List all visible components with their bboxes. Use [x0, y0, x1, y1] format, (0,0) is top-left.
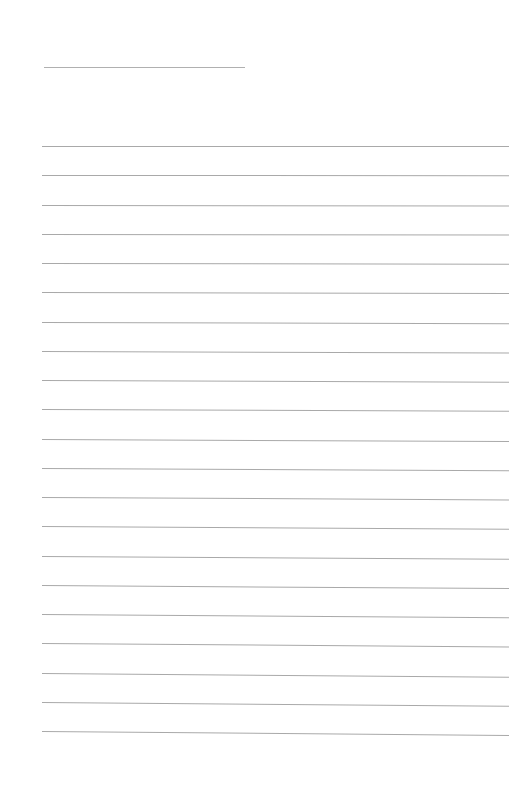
ruled-line	[42, 673, 509, 678]
ruled-line	[42, 497, 509, 500]
ruled-line	[42, 643, 509, 647]
ruled-line	[42, 585, 509, 589]
ruled-line	[42, 731, 509, 736]
title-line	[44, 67, 245, 68]
ruled-line	[42, 146, 509, 147]
ruled-line	[42, 175, 509, 176]
ruled-line	[42, 351, 509, 353]
ruled-line	[42, 614, 509, 618]
ruled-line	[42, 234, 509, 236]
lined-paper-page	[0, 0, 525, 801]
ruled-line	[42, 409, 509, 412]
ruled-line	[42, 526, 509, 530]
ruled-line	[42, 702, 509, 707]
ruled-line	[42, 205, 509, 206]
ruled-line	[42, 556, 509, 560]
ruled-line	[42, 468, 509, 471]
ruled-line	[42, 263, 509, 265]
ruled-line	[42, 380, 509, 383]
ruled-line	[42, 439, 509, 442]
ruled-line	[42, 292, 509, 294]
ruled-line	[42, 322, 509, 324]
